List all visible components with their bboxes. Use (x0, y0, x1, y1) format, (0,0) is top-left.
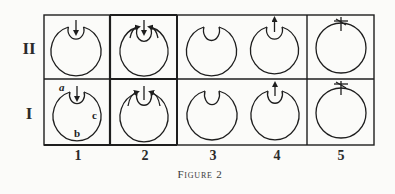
col-label-1: 1 (68, 148, 88, 164)
col-label-5: 5 (331, 148, 351, 164)
cell-II-4-icon (251, 19, 299, 74)
cell-II-5-icon (316, 17, 366, 73)
cell-I-4-icon (251, 84, 299, 140)
cell-I-5-icon (316, 81, 366, 138)
figure-2: a b c II I 1 2 3 4 5 Figure 2 (0, 0, 395, 194)
cell-II-1-icon (51, 20, 101, 76)
row-label-II: II (17, 39, 41, 59)
annotation-c: c (92, 109, 97, 121)
figure-caption: Figure 2 (160, 168, 240, 180)
row-label-I: I (17, 104, 41, 124)
cell-II-2-icon (120, 20, 168, 76)
cell-II-3-icon (187, 27, 237, 76)
col-label-2: 2 (135, 148, 155, 164)
col-label-4: 4 (267, 148, 287, 164)
annotation-b: b (74, 127, 80, 139)
annotation-a: a (59, 81, 65, 93)
grid-frame (44, 15, 374, 145)
cell-I-3-icon (187, 91, 237, 140)
col-label-3: 3 (203, 148, 223, 164)
cell-I-2-icon (120, 86, 168, 142)
grid-diagram: a b c (0, 0, 395, 194)
